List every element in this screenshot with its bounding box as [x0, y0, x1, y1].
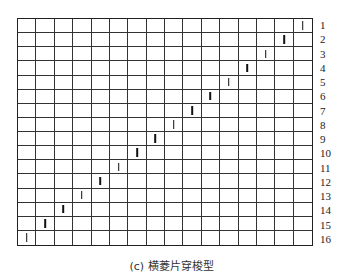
grid-cell: [147, 189, 165, 203]
grid-cell: [239, 47, 257, 61]
grid-cell: [128, 33, 146, 47]
grid-cell: [147, 132, 165, 146]
grid-cell: [92, 203, 110, 217]
grid-cell: [110, 61, 128, 75]
grid-cell: [55, 47, 73, 61]
grid-cell: [128, 104, 146, 118]
grid-cell: [257, 132, 275, 146]
row-label: 7: [318, 104, 340, 118]
grid-cell: [92, 146, 110, 160]
grid-cell: [36, 203, 54, 217]
grid-cell: [275, 189, 293, 203]
grid-cell: [294, 160, 312, 174]
vertical-bar-mark: [228, 78, 230, 86]
grid-cell: [294, 104, 312, 118]
grid-cell: [239, 160, 257, 174]
grid-cell: [18, 231, 36, 245]
vertical-bar-mark: [99, 177, 101, 185]
grid-cell: [147, 47, 165, 61]
grid-cell: [220, 33, 238, 47]
grid-cell: [128, 132, 146, 146]
grid-cell: [202, 90, 220, 104]
grid-cell: [275, 118, 293, 132]
grid-cell: [257, 217, 275, 231]
grid-cell: [202, 76, 220, 90]
grid-cell: [147, 33, 165, 47]
grid-cell: [92, 189, 110, 203]
grid-cell: [92, 47, 110, 61]
row-label: 13: [318, 189, 340, 203]
grid-cell: [18, 189, 36, 203]
grid-cell: [18, 160, 36, 174]
grid-cell: [128, 61, 146, 75]
grid-cell: [294, 231, 312, 245]
vertical-bar-mark: [136, 148, 138, 156]
grid-cell: [92, 231, 110, 245]
grid-cell: [257, 33, 275, 47]
grid-cell: [275, 19, 293, 33]
row-label: 3: [318, 47, 340, 61]
grid-cell: [18, 33, 36, 47]
grid-cell: [220, 104, 238, 118]
grid-cell: [239, 132, 257, 146]
grid-cell: [36, 160, 54, 174]
grid-cell: [165, 217, 183, 231]
grid-cell: [183, 132, 201, 146]
grid-cell: [147, 203, 165, 217]
grid-cell: [220, 19, 238, 33]
grid-cell: [202, 47, 220, 61]
grid-cell: [257, 90, 275, 104]
grid-cell: [147, 146, 165, 160]
grid-cell: [257, 146, 275, 160]
grid-cell: [165, 90, 183, 104]
grid-cell: [183, 104, 201, 118]
grid-cell: [110, 132, 128, 146]
grid-cell: [275, 231, 293, 245]
grid-cell: [294, 203, 312, 217]
pattern-grid: [17, 18, 313, 246]
grid-cell: [239, 146, 257, 160]
grid-cell: [275, 203, 293, 217]
grid-cell: [110, 174, 128, 188]
grid-cell: [92, 104, 110, 118]
grid-cell: [202, 33, 220, 47]
vertical-bar-mark: [210, 92, 212, 100]
grid-cell: [110, 189, 128, 203]
grid-cell: [220, 231, 238, 245]
grid-cell: [239, 104, 257, 118]
grid-cell: [165, 61, 183, 75]
vertical-bar-mark: [246, 64, 248, 72]
grid-cell: [73, 203, 91, 217]
grid-cell: [55, 33, 73, 47]
grid-cell: [294, 118, 312, 132]
grid-cell: [73, 104, 91, 118]
grid-cell: [36, 90, 54, 104]
grid-cell: [18, 47, 36, 61]
grid-cell: [18, 146, 36, 160]
grid-cell: [18, 118, 36, 132]
grid-cell: [92, 19, 110, 33]
grid-cell: [92, 90, 110, 104]
grid-cell: [165, 189, 183, 203]
grid-cell: [147, 118, 165, 132]
grid-cell: [183, 174, 201, 188]
grid-cell: [165, 104, 183, 118]
vertical-bar-mark: [283, 35, 285, 43]
grid-cell: [294, 174, 312, 188]
grid-cell: [18, 203, 36, 217]
grid-cell: [294, 47, 312, 61]
grid-cell: [220, 132, 238, 146]
grid-cell: [165, 47, 183, 61]
grid-cell: [110, 19, 128, 33]
grid-cell: [128, 189, 146, 203]
grid-cell: [55, 203, 73, 217]
grid-cell: [165, 231, 183, 245]
grid-cell: [257, 203, 275, 217]
grid-cell: [202, 189, 220, 203]
grid-cell: [73, 61, 91, 75]
grid-cell: [294, 33, 312, 47]
grid-cell: [128, 231, 146, 245]
grid-cell: [239, 203, 257, 217]
grid-cell: [275, 160, 293, 174]
grid-cell: [220, 174, 238, 188]
